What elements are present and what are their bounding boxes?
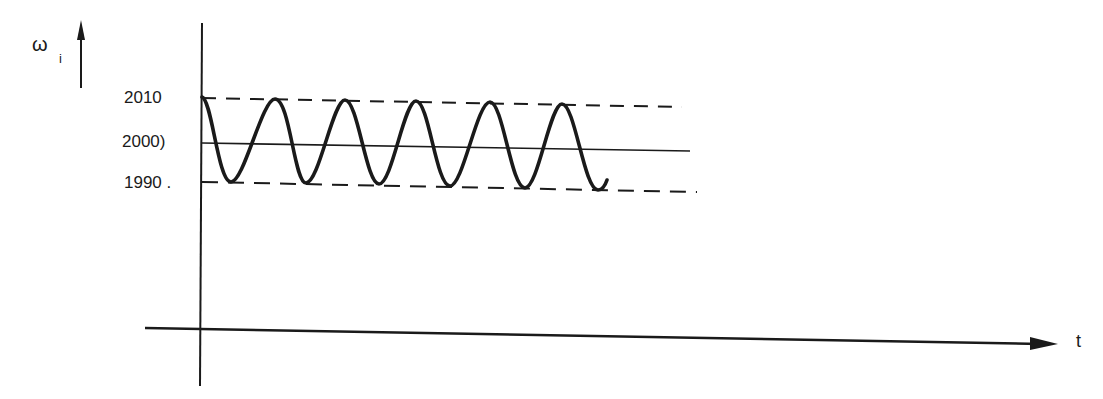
y-axis-arrow-icon	[77, 20, 85, 88]
y-axis-label-subscript: i	[59, 52, 62, 65]
y-tick-2010: 2010	[124, 89, 162, 106]
vertical-axis	[200, 23, 202, 386]
x-axis-label: t	[1076, 332, 1081, 350]
frequency-oscillation-diagram: ω i 2010 2000) 1990 . t	[0, 0, 1103, 399]
y-tick-1990: 1990 .	[124, 174, 171, 191]
diagram-canvas	[0, 0, 1103, 399]
time-axis	[145, 328, 1058, 350]
y-tick-2000: 2000)	[122, 133, 165, 150]
nominal-line-2000	[202, 143, 690, 151]
time-axis-arrowhead-icon	[1030, 337, 1058, 350]
y-axis-label: ω	[32, 34, 48, 54]
